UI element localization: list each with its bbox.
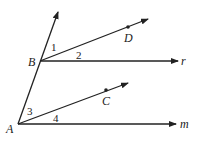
angle-1-label: 1 xyxy=(51,41,57,53)
label-r: r xyxy=(181,54,186,68)
label-c: C xyxy=(102,94,111,108)
point-d-dot xyxy=(126,25,130,29)
transversal-line xyxy=(18,12,58,124)
label-d: D xyxy=(123,31,133,45)
geometry-diagram: B A D C r m 1 2 3 4 xyxy=(0,0,201,146)
label-b: B xyxy=(28,55,36,69)
ray-ac xyxy=(18,83,128,124)
angle-4-label: 4 xyxy=(53,112,59,124)
angle-2-label: 2 xyxy=(76,49,82,61)
label-a: A xyxy=(5,122,14,136)
point-c-dot xyxy=(104,88,108,92)
angle-3-label: 3 xyxy=(27,105,33,117)
label-m: m xyxy=(180,117,189,131)
